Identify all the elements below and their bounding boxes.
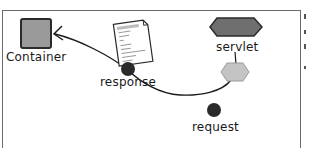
servlet-label: servlet	[216, 40, 259, 54]
side-mark	[304, 44, 306, 49]
request-dot	[207, 103, 221, 117]
side-mark	[304, 14, 306, 19]
servlet-thread-hexagon	[221, 63, 249, 81]
arrowhead-icon	[54, 26, 63, 40]
servlet-hexagon	[210, 18, 262, 36]
container-label: Container	[6, 50, 66, 64]
side-mark	[304, 30, 306, 34]
container-box	[21, 19, 51, 48]
side-mark	[304, 66, 306, 69]
request-label: request	[192, 120, 239, 134]
response-dot	[121, 62, 135, 76]
document-icon	[113, 20, 153, 66]
diagram-canvas	[0, 0, 309, 148]
response-label: response	[100, 75, 156, 89]
